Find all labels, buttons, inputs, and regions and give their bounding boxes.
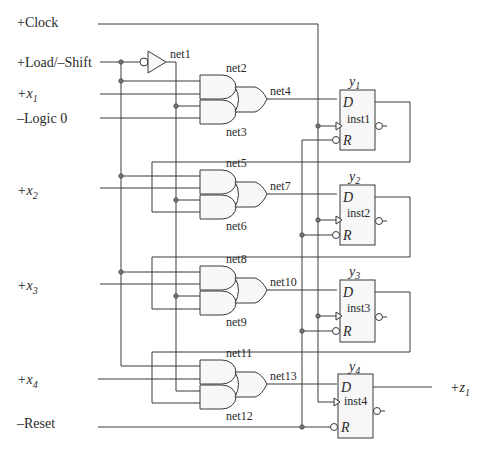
y2-label: y2	[347, 169, 360, 186]
load-shift-label: +Load/–Shift	[17, 55, 92, 70]
net11-label: net11	[226, 346, 252, 360]
gate-block-2	[200, 170, 337, 219]
x1-label: +x1	[17, 86, 38, 104]
net7-label: net7	[270, 179, 291, 193]
reset-label: –Reset	[16, 416, 55, 431]
net12-label: net12	[226, 409, 253, 423]
inst2-label: inst2	[347, 206, 370, 220]
x4-label: +x4	[17, 372, 38, 390]
ff3-r: R	[342, 324, 352, 339]
x3-label: +x3	[17, 278, 38, 296]
ff1-d: D	[342, 95, 353, 110]
ff4-d: D	[340, 380, 351, 395]
inst3-label: inst3	[347, 301, 370, 315]
net6-label: net6	[226, 219, 247, 233]
ff1-r: R	[342, 133, 352, 148]
y1-label: y1	[347, 74, 360, 91]
gate-block-3	[200, 266, 337, 315]
gate-block-4	[200, 360, 337, 409]
net5-label: net5	[226, 156, 247, 170]
ff2-r: R	[342, 228, 352, 243]
net2-label: net2	[226, 61, 247, 75]
clock-label: +Clock	[17, 15, 58, 30]
y4-label: y4	[347, 359, 360, 376]
z1-output-label: +z1	[450, 380, 470, 398]
net8-label: net8	[226, 252, 247, 266]
y3-label: y3	[347, 264, 360, 281]
logic0-label: –Logic 0	[16, 111, 67, 126]
ff2-d: D	[342, 190, 353, 205]
net1-label: net1	[170, 47, 191, 61]
inst1-label: inst1	[347, 112, 370, 126]
ff4-r: R	[340, 420, 350, 435]
net9-label: net9	[226, 315, 247, 329]
net10-label: net10	[270, 275, 297, 289]
shift-register-schematic: +Clock +Load/–Shift +x1 –Logic 0 +x2 +x3…	[0, 0, 483, 454]
inst4-label: inst4	[344, 394, 367, 408]
gate-block-1	[200, 75, 337, 124]
x2-label: +x2	[17, 183, 38, 201]
net3-label: net3	[226, 125, 247, 139]
net4-label: net4	[270, 84, 291, 98]
inverter	[140, 51, 200, 391]
net13-label: net13	[270, 369, 297, 383]
ff3-d: D	[342, 285, 353, 300]
